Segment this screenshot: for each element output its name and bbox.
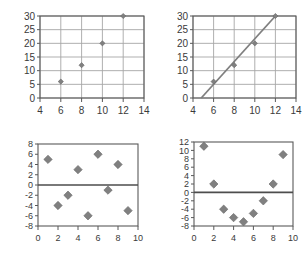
y-tick-label: 10 (24, 65, 36, 76)
x-tick-label: 10 (288, 233, 298, 243)
y-tick-label: 25 (177, 24, 189, 35)
chart-bottom-left: -8-6-4-2024680246810 (0, 130, 152, 260)
panel-bottom-left: -8-6-4-2024680246810 (0, 130, 152, 260)
y-tick-label: 30 (177, 11, 189, 22)
y-tick-label: -6 (25, 211, 33, 221)
y-tick-label: 4 (28, 160, 33, 170)
y-tick-label: 5 (29, 79, 35, 90)
y-tick-label: 2 (28, 170, 33, 180)
x-tick-label: 4 (231, 233, 236, 243)
chart-top-right: 051015202530468101214 (152, 0, 305, 130)
y-tick-label: 8 (28, 139, 33, 149)
x-tick-label: 0 (191, 233, 196, 243)
y-tick-label: 0 (182, 93, 188, 104)
x-tick-label: 8 (271, 233, 276, 243)
x-tick-label: 10 (133, 233, 143, 243)
x-tick-label: 0 (35, 233, 40, 243)
y-tick-label: -8 (25, 221, 33, 231)
panel-top-left: 051015202530468101214 (0, 0, 152, 130)
panel-bottom-right: -8-6-4-20246810120246810 (152, 130, 305, 260)
x-tick-label: 2 (211, 233, 216, 243)
chart-top-left: 051015202530468101214 (0, 0, 152, 130)
x-tick-label: 2 (55, 233, 60, 243)
x-tick-label: 4 (37, 105, 43, 116)
panel-top-right: 051015202530468101214 (152, 0, 305, 130)
y-tick-label: -2 (25, 190, 33, 200)
x-tick-label: 4 (190, 105, 196, 116)
y-tick-label: 5 (182, 79, 188, 90)
y-tick-label: 12 (179, 137, 189, 147)
x-tick-label: 6 (251, 233, 256, 243)
y-tick-label: 0 (29, 93, 35, 104)
y-tick-label: 15 (177, 52, 189, 63)
y-tick-label: 6 (28, 149, 33, 159)
y-tick-label: 25 (24, 24, 36, 35)
y-tick-label: 30 (24, 11, 36, 22)
y-tick-label: -4 (25, 201, 33, 211)
x-tick-label: 14 (138, 105, 150, 116)
x-tick-label: 10 (249, 105, 261, 116)
x-tick-label: 14 (290, 105, 302, 116)
x-tick-label: 6 (211, 105, 217, 116)
x-tick-label: 10 (97, 105, 109, 116)
x-tick-label: 4 (75, 233, 80, 243)
chart-bottom-right: -8-6-4-20246810120246810 (152, 130, 305, 260)
y-tick-label: 0 (28, 180, 33, 190)
x-tick-label: 6 (95, 233, 100, 243)
x-tick-label: 8 (79, 105, 85, 116)
x-tick-label: 6 (58, 105, 64, 116)
x-tick-label: 8 (231, 105, 237, 116)
plot-area (194, 142, 293, 226)
y-tick-label: 20 (177, 38, 189, 49)
x-tick-label: 12 (270, 105, 282, 116)
x-tick-label: 8 (115, 233, 120, 243)
y-tick-label: 15 (24, 52, 36, 63)
y-tick-label: 20 (24, 38, 36, 49)
y-tick-label: 10 (177, 65, 189, 76)
four-panel-scatter-figure: 051015202530468101214 051015202530468101… (0, 0, 305, 260)
x-tick-label: 12 (118, 105, 130, 116)
